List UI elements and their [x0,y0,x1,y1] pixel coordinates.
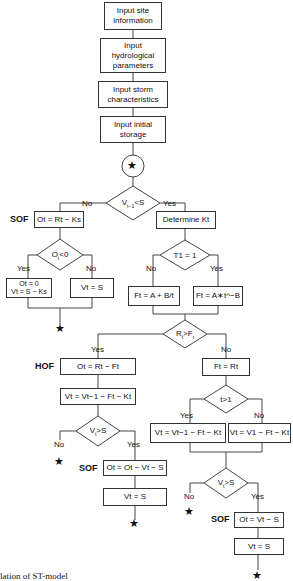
hof-outflow-box: Ot = Rt − Ft [60,358,136,375]
storage-equals-s-box-3: Vt = S [234,538,284,555]
input-storm-characteristics-box: Input storm characteristics [98,81,168,108]
sof-label-2: SOF [79,464,98,473]
infiltration-formula-1-box: Ft = A + B/t [128,286,180,306]
start-connector-star-icon: ★ [127,160,137,171]
d1-no-label: No [82,199,92,208]
outflow-zero-box: Ot = 0 Vt = S − Ks [6,278,52,298]
decision-storage-exceeds-2: Vt>S [208,476,244,490]
d4-no-label: No [221,345,231,354]
sof-outflow-box-3: Ot = Vt − S [234,512,284,528]
d3-no-label: No [146,264,156,273]
connector-star-icon-2: ★ [54,456,64,467]
connector-star-icon-1: ★ [55,323,65,334]
d5-no-label: No [54,440,64,449]
input-initial-storage-box: Input initial storage [100,116,166,143]
decision-d4-text: Rt>Ft [176,329,194,340]
decision-outflow-negative: Ot<0 [40,248,80,262]
d2-yes-label: Yes [17,264,30,273]
d1-yes-label: Yes [163,199,176,208]
determine-kt-box: Determine Kt [156,211,216,229]
sof-outflow-box-2: Ot = Ot − Vt − S [103,460,167,476]
connector-star-icon-5: ★ [252,570,262,581]
decision-storage-exceeds-1: Vt>S [80,424,116,438]
connector-star-icon-4: ★ [184,506,194,517]
decision-rain-vs-infiltration: Rt>Ft [166,327,204,341]
decision-d2-text: Ot<0 [52,250,69,261]
decision-t1: T1 = 1 [165,248,205,262]
hof-label: HOF [35,362,54,371]
connector-star-icon-3: ★ [129,518,139,529]
decision-d7-text: Vt>S [218,478,235,489]
d2-no-label: No [86,264,96,273]
storage-update-box-3: Vt = V1 − Ft − Kt [228,423,291,443]
input-site-information-box: Input site information [104,2,162,30]
d6-no-label: No [254,411,264,420]
storage-update-box-1: Vt = Vt−1 − Ft − Kt [60,388,136,405]
input-hydrological-parameters-box: Input hydrological parameters [100,38,166,73]
infiltration-equals-rain-box: Ft = Rt [202,358,250,376]
decision-d1-text: Vt−1<S [122,198,144,209]
storage-equals-s-box-1: Vt = S [70,278,114,298]
sof-outflow-box: Ot = Rt − Ks [34,211,84,228]
d7-no-label: No [184,492,194,501]
storage-update-box-2: Vt = Vt−1 − Ft − Kt [150,423,226,443]
storage-equals-s-box-2: Vt = S [103,488,167,506]
infiltration-formula-2-box: Ft = A∗t^−B [193,286,243,306]
sof-label-1: SOF [10,215,29,224]
decision-d5-text: Vt>S [90,426,107,437]
d4-yes-label: Yes [91,345,104,354]
figure-caption: lation of ST-model [0,571,68,581]
sof-label-3: SOF [211,515,230,524]
decision-time-step: t>1 [208,392,244,406]
decision-storage-check: Vt−1<S [108,196,158,210]
d7-yes-label: Yes [251,492,264,501]
d6-yes-label: Yes [180,411,193,420]
d3-yes-label: Yes [210,264,223,273]
d5-yes-label: Yes [127,440,140,449]
